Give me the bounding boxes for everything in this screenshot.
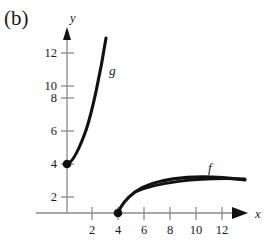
- y-tick-label-10: 10: [45, 79, 58, 93]
- curve-g: [67, 38, 106, 164]
- x-axis-arrow-icon: [232, 207, 248, 219]
- x-tick-label-4: 4: [115, 223, 122, 237]
- y-axis-arrow-icon: [63, 27, 71, 40]
- y-tick-label-12: 12: [45, 46, 58, 60]
- figure-panel-b: (b) 2: [0, 0, 269, 243]
- curve-g-label: g: [109, 63, 116, 78]
- y-tick-label-8: 8: [51, 91, 57, 105]
- x-tick-label-6: 6: [141, 223, 147, 237]
- graph-svg: 2 4 6 8 10 12 2 4 6 8 10 12 y x g f: [0, 0, 269, 243]
- y-tick-label-4: 4: [51, 157, 58, 171]
- panel-label: (b): [4, 8, 29, 29]
- x-tick-label-8: 8: [167, 223, 173, 237]
- curve-f-tail: [135, 179, 245, 192]
- curve-f-label: f: [208, 160, 214, 175]
- y-axis-label: y: [68, 11, 76, 25]
- x-tick-label-10: 10: [190, 223, 203, 237]
- x-axis: [36, 207, 248, 219]
- x-tick-label-12: 12: [216, 223, 229, 237]
- y-tick-label-6: 6: [51, 124, 57, 138]
- curve-g-endpoint-dot: [63, 160, 72, 169]
- curve-f-endpoint-dot: [114, 209, 123, 218]
- x-axis-label: x: [254, 207, 261, 221]
- y-axis: [63, 27, 71, 213]
- y-tick-label-2: 2: [51, 190, 57, 204]
- x-tick-label-2: 2: [89, 223, 95, 237]
